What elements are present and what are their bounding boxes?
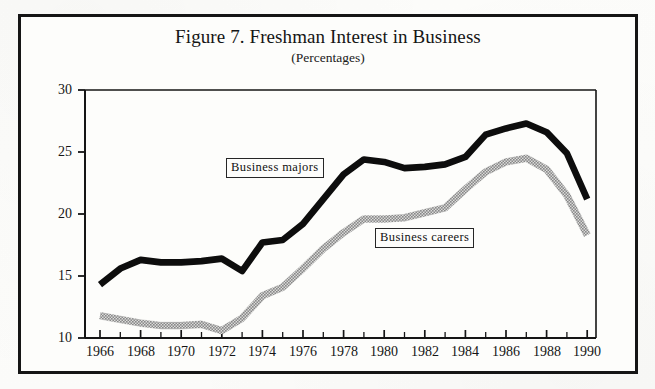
xtick-label-1982: 1982: [411, 344, 439, 360]
title-block: Figure 7. Freshman Interest in Business …: [21, 25, 635, 67]
ytick-label-30: 30: [48, 82, 72, 98]
figure-frame: Figure 7. Freshman Interest in Business …: [18, 14, 638, 374]
ytick-label-10: 10: [48, 330, 72, 346]
xtick-label-1970: 1970: [167, 344, 195, 360]
ytick-label-15: 15: [48, 268, 72, 284]
xtick-label-1974: 1974: [248, 344, 276, 360]
xtick-label-1966: 1966: [86, 344, 114, 360]
xtick-label-1990: 1990: [573, 344, 601, 360]
ytick-label-20: 20: [48, 206, 72, 222]
xtick-label-1968: 1968: [127, 344, 155, 360]
chart-subtitle: (Percentages): [21, 49, 635, 67]
xtick-label-1976: 1976: [289, 344, 317, 360]
xtick-label-1980: 1980: [370, 344, 398, 360]
xtick-label-1986: 1986: [492, 344, 520, 360]
figure-page: Figure 7. Freshman Interest in Business …: [0, 0, 655, 389]
xtick-label-1984: 1984: [451, 344, 479, 360]
chart-title: Figure 7. Freshman Interest in Business: [21, 25, 635, 49]
annotation-business-careers: Business careers: [375, 228, 474, 248]
xtick-label-1988: 1988: [533, 344, 561, 360]
xtick-label-1972: 1972: [208, 344, 236, 360]
annotation-business-majors: Business majors: [226, 158, 324, 178]
ytick-label-25: 25: [48, 144, 72, 160]
xtick-label-1978: 1978: [330, 344, 358, 360]
